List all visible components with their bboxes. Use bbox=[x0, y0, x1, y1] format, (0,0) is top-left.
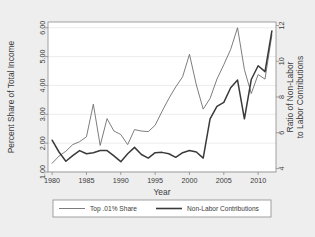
plot-area-background bbox=[48, 22, 276, 172]
y2-axis-title-line2: to Labor Contributions bbox=[295, 56, 305, 138]
x-tick-label: 2000 bbox=[181, 176, 197, 185]
chart-figure: 1.002.003.004.005.006.00 4681012 1980198… bbox=[0, 0, 315, 237]
y2-tick-label: 12 bbox=[277, 22, 286, 30]
y-tick-label: 2.00 bbox=[38, 136, 47, 150]
y2-axis-title-line1: Ratio of Non-Labor bbox=[285, 61, 295, 132]
y-tick-label: 3.00 bbox=[38, 107, 47, 121]
y2-tick-label: 4 bbox=[277, 166, 286, 170]
chart-legend: Top .01% ShareNon-Labor Contributions bbox=[53, 200, 271, 217]
x-tick-label: 2010 bbox=[250, 176, 266, 185]
legend-label-top-share: Top .01% Share bbox=[90, 205, 137, 213]
y-tick-label: 4.00 bbox=[38, 78, 47, 92]
y-tick-label: 5.00 bbox=[38, 50, 47, 64]
chart-svg: 1.002.003.004.005.006.00 4681012 1980198… bbox=[0, 0, 315, 237]
x-tick-label: 1980 bbox=[44, 176, 60, 185]
x-tick-label: 2005 bbox=[216, 176, 232, 185]
x-tick-label: 1985 bbox=[78, 176, 94, 185]
x-axis-title: Year bbox=[154, 187, 171, 197]
x-tick-label: 1990 bbox=[113, 176, 129, 185]
x-tick-label: 1995 bbox=[147, 176, 163, 185]
y-tick-label: 6.00 bbox=[38, 21, 47, 35]
y-axis-title: Percent Share of Total Income bbox=[6, 40, 16, 153]
legend-label-non-labor: Non-Labor Contributions bbox=[187, 205, 260, 212]
